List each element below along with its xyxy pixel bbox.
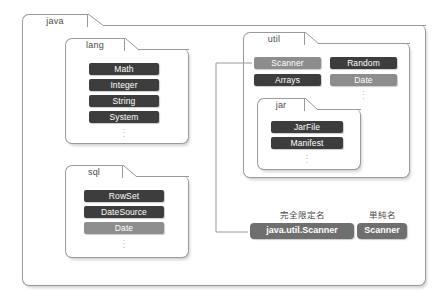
folder-tab-sql: sql — [65, 165, 123, 178]
more-classes-indicator: ··· — [89, 128, 159, 138]
class-pill[interactable]: Date — [84, 222, 164, 234]
folder-label-java: java — [23, 15, 87, 28]
folder-tab-slant-sql — [123, 165, 137, 177]
class-pill[interactable]: Manifest — [271, 137, 343, 149]
folder-label-util: util — [244, 33, 304, 46]
class-pill[interactable]: System — [89, 111, 159, 123]
package-folder-lang: lang Math Integer String System ··· — [65, 38, 189, 144]
package-folder-util: util Scanner Arrays Random Date ··· jar … — [243, 32, 410, 178]
folder-label-sql: sql — [66, 166, 122, 179]
folder-tab-slant-jar — [305, 98, 318, 110]
class-pill[interactable]: JarFile — [271, 121, 343, 133]
class-pill[interactable]: DateSource — [84, 206, 164, 218]
folder-tab-java: java — [22, 14, 88, 27]
callout-label-simple: 単純名 — [356, 208, 408, 220]
callout-label-fqn: 完全限定名 — [252, 208, 352, 220]
class-pill[interactable]: Arrays — [254, 74, 321, 86]
more-classes-indicator: ··· — [271, 154, 343, 164]
folder-top-edge-jar — [317, 109, 361, 110]
folder-tab-slant-lang — [125, 38, 139, 50]
folder-top-edge-java — [103, 25, 426, 26]
package-folder-jar: jar JarFile Manifest ··· — [257, 98, 361, 170]
more-classes-indicator: ··· — [84, 239, 164, 249]
folder-label-jar: jar — [258, 99, 304, 112]
package-folder-sql: sql RowSet DateSource Date ··· — [65, 165, 189, 258]
folder-tab-jar: jar — [257, 98, 305, 111]
folder-top-edge-sql — [136, 176, 189, 177]
callout-pill-fqn[interactable]: java.util.Scanner — [250, 223, 354, 239]
folder-tab-slant-java — [88, 14, 104, 26]
class-pill[interactable]: Math — [89, 63, 159, 75]
callout-pill-simple[interactable]: Scanner — [357, 223, 407, 239]
folder-tab-util: util — [243, 32, 305, 45]
class-pill[interactable]: String — [89, 95, 159, 107]
class-pill[interactable]: Date — [330, 74, 397, 86]
folder-label-lang: lang — [66, 39, 124, 52]
folder-tab-lang: lang — [65, 38, 125, 51]
class-pill[interactable]: Integer — [89, 79, 159, 91]
class-pill[interactable]: Random — [330, 57, 397, 69]
folder-top-edge-lang — [138, 49, 189, 50]
folder-top-edge-util — [318, 43, 410, 44]
class-pill-scanner[interactable]: Scanner — [254, 57, 321, 69]
diagram-canvas: java lang Math Integer String System ···… — [0, 0, 444, 301]
folder-tab-slant-util — [305, 32, 319, 44]
class-pill[interactable]: RowSet — [84, 190, 164, 202]
